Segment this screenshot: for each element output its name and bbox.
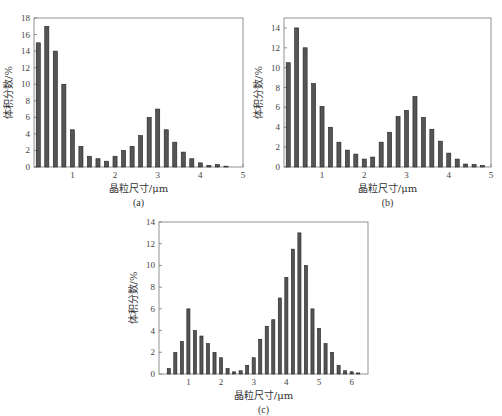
bar <box>344 371 347 374</box>
bar <box>187 309 190 374</box>
y-tick-label: 6 <box>151 304 156 314</box>
bar <box>350 372 353 374</box>
x-tick-label: 4 <box>284 377 289 387</box>
x-tick-label: 6 <box>349 377 354 387</box>
bar <box>259 339 262 374</box>
y-tick-label: 4 <box>151 326 156 336</box>
bar <box>226 369 229 374</box>
y-tick-label: 12 <box>146 239 155 249</box>
bar <box>272 320 275 374</box>
bar <box>331 352 334 374</box>
bar <box>337 365 340 374</box>
bar <box>357 373 360 374</box>
bar <box>239 371 242 374</box>
y-tick-label: 2 <box>151 347 156 357</box>
bar <box>233 372 236 374</box>
x-tick-label: 5 <box>317 377 322 387</box>
x-axis-label: 晶粒尺寸/μm <box>234 389 294 401</box>
bar <box>265 326 268 374</box>
bar <box>324 344 327 374</box>
y-tick-label: 8 <box>151 282 156 292</box>
y-tick-label: 14 <box>146 217 156 227</box>
x-tick-label: 2 <box>219 377 224 387</box>
bar <box>219 358 222 374</box>
bar <box>278 298 281 374</box>
y-tick-label: 10 <box>146 260 156 270</box>
y-tick-label: 0 <box>151 369 156 379</box>
bar <box>213 352 216 374</box>
bar <box>180 341 183 374</box>
plot-frame <box>159 222 368 374</box>
bar <box>246 365 249 374</box>
bar <box>285 277 288 374</box>
bar <box>206 344 209 374</box>
bar <box>174 352 177 374</box>
bar <box>193 331 196 374</box>
bar <box>311 309 314 374</box>
bar <box>200 336 203 374</box>
x-tick-label: 3 <box>251 377 256 387</box>
y-axis-label: 体积分数/% <box>127 272 139 325</box>
bar <box>167 369 170 374</box>
bar <box>304 265 307 374</box>
x-tick-label: 1 <box>186 377 191 387</box>
chart-c-svg: 02468101214123456晶粒尺寸/μm(c)体积分数/% <box>0 0 502 416</box>
bar <box>291 249 294 374</box>
panel-caption: (c) <box>258 404 269 416</box>
bar <box>317 328 320 374</box>
bar <box>252 358 255 374</box>
chart-c: 02468101214123456晶粒尺寸/μm(c)体积分数/% <box>0 0 502 416</box>
bar <box>298 233 301 374</box>
